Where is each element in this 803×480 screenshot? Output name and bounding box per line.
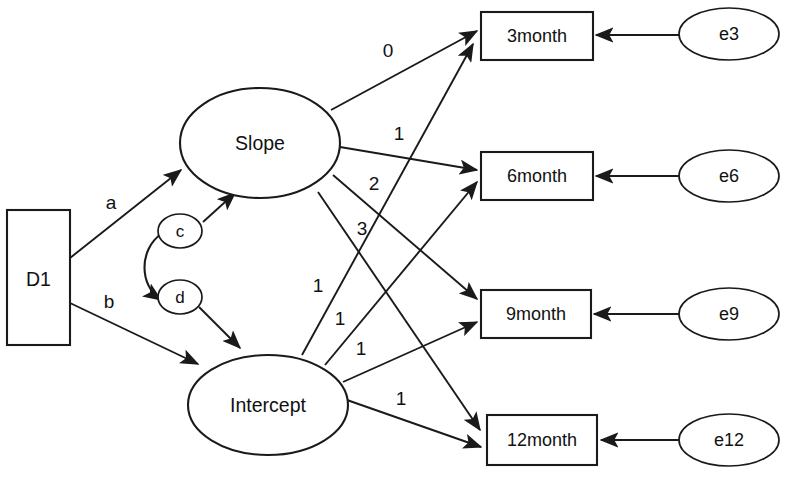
node-mediator-d-label: d [175, 288, 184, 307]
node-indicator-9month-label: 9month [506, 304, 566, 324]
edge-label-d1-to-intercept: b [104, 291, 115, 312]
node-error-e3-label: e3 [719, 24, 739, 44]
edge-slope-to-9month [333, 175, 477, 299]
node-error-e6-label: e6 [719, 166, 739, 186]
edge-slope-to-3month [331, 31, 477, 110]
edge-c-d-covariance [145, 234, 162, 300]
edge-label-slope-to-12month: 3 [357, 218, 368, 239]
node-error-e9-label: e9 [719, 304, 739, 324]
edge-slope-to-6month [340, 147, 477, 170]
node-latent-slope-label: Slope [235, 132, 285, 154]
node-indicator-12month-label: 12month [507, 430, 577, 450]
edge-label-intercept-to-6month: 1 [335, 308, 346, 329]
node-indicator-6month-label: 6month [507, 166, 567, 186]
edge-d1-to-slope [70, 170, 181, 258]
edge-label-slope-to-9month: 2 [369, 173, 380, 194]
node-latent-intercept-label: Intercept [230, 394, 306, 416]
edge-intercept-to-12month [347, 400, 481, 447]
node-disturbance-d1-label: D1 [26, 268, 51, 290]
node-mediator-c-label: c [176, 222, 185, 241]
edge-label-slope-to-3month: 0 [383, 40, 394, 61]
edge-intercept-to-3month [302, 44, 473, 355]
node-indicator-3month-label: 3month [507, 26, 567, 46]
node-error-e12-label: e12 [714, 430, 744, 450]
edge-c-to-slope [203, 193, 235, 222]
edge-label-d1-to-slope: a [106, 192, 117, 213]
edge-label-slope-to-6month: 1 [394, 123, 405, 144]
edge-label-intercept-to-3month: 1 [313, 275, 324, 296]
sem-path-diagram: D1 Slope Intercept c d 3month 6month 9mo… [0, 0, 803, 480]
edge-d-to-intercept [199, 307, 240, 348]
edge-label-intercept-to-12month: 1 [396, 388, 407, 409]
diagram-canvas: D1 Slope Intercept c d 3month 6month 9mo… [0, 0, 803, 480]
edge-label-intercept-to-9month: 1 [356, 338, 367, 359]
